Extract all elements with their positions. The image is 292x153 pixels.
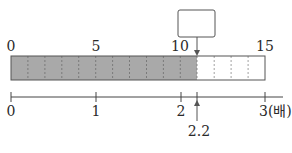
- bar-label-5: 5: [92, 38, 101, 54]
- bar-label-0: 0: [7, 38, 16, 54]
- number-line: [11, 92, 283, 102]
- down-arrow-icon: [194, 37, 200, 56]
- number-line-label-0: 0: [7, 103, 16, 119]
- number-line-label-1: 1: [92, 103, 101, 119]
- double-number-line-diagram: 0 5 10 15: [0, 0, 292, 153]
- number-line-label-2: 2: [177, 103, 186, 119]
- marker-label: 2.2: [188, 123, 210, 139]
- bar-label-10: 10: [171, 38, 189, 54]
- number-line-label-3: 3(배): [259, 103, 292, 119]
- bar-label-15: 15: [256, 38, 274, 54]
- bar-filled-part: [11, 56, 197, 80]
- up-arrow-icon: [194, 100, 200, 121]
- proportion-bar: [11, 56, 265, 80]
- answer-box[interactable]: [178, 10, 215, 37]
